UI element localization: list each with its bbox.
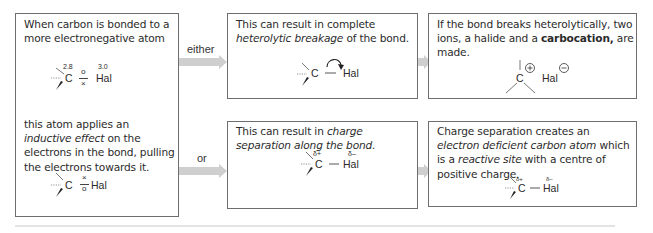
heterolytic-text: This can result in complete heterolytic … bbox=[236, 17, 416, 45]
carbon-label: C bbox=[65, 180, 73, 191]
carbon-label: C bbox=[315, 159, 323, 170]
carbon-label: C bbox=[311, 68, 319, 79]
halogen-label: Hal bbox=[543, 183, 559, 194]
electron-cross: × bbox=[81, 80, 86, 88]
partial-negative-charge: δ– bbox=[348, 150, 356, 158]
electron-cross: × bbox=[82, 174, 87, 182]
electron-dot: o bbox=[82, 185, 86, 193]
electron-dot: o bbox=[81, 68, 85, 76]
arrow-right-icon bbox=[179, 164, 229, 178]
reactive-site-text: Charge separation creates an electron de… bbox=[437, 124, 635, 181]
carbon-label: C bbox=[516, 73, 524, 84]
premise-top-text: When carbon is bonded to a more electron… bbox=[24, 17, 174, 45]
molecule-c-hal-electronegativity: 2.8 C o × 3.0 Hal bbox=[50, 60, 160, 96]
halogen-label: Hal bbox=[343, 68, 359, 79]
text-emphasis: inductive effect bbox=[24, 132, 104, 144]
text-bold: carbocation, bbox=[541, 32, 614, 44]
either-label: either bbox=[187, 43, 215, 55]
partial-positive-charge: δ+ bbox=[313, 150, 321, 158]
carbocation-text: If the bond breaks heterolytically, two … bbox=[437, 17, 635, 60]
halogen-label: Hal bbox=[96, 73, 112, 84]
halogen-label: Hal bbox=[91, 180, 107, 191]
molecule-c-hal-inductive: C × o Hal bbox=[50, 169, 160, 205]
divider bbox=[15, 225, 615, 227]
molecule-heterolytic: C Hal bbox=[296, 55, 396, 95]
text-part: Charge separation creates an bbox=[437, 125, 590, 137]
carbon-label: C bbox=[518, 183, 526, 194]
molecule-reactive-site: δ+ C δ– Hal bbox=[504, 176, 604, 208]
charge-separation-text: This can result in charge separation alo… bbox=[236, 124, 416, 152]
halogen-label: Hal bbox=[343, 159, 359, 170]
text-part: This can result in complete bbox=[236, 18, 375, 30]
molecule-charge-separation: δ+ C δ– Hal bbox=[300, 150, 400, 190]
text-part: This can result in bbox=[236, 125, 327, 137]
halide-label: Hal bbox=[542, 73, 558, 84]
carbon-label: C bbox=[65, 73, 73, 84]
arrow-right-icon bbox=[179, 55, 229, 69]
premise-bottom-text: this atom applies an inductive effect on… bbox=[24, 117, 176, 174]
text-part: of the bond. bbox=[343, 32, 409, 44]
carbon-electronegativity: 2.8 bbox=[63, 63, 73, 71]
text-part: this atom applies an bbox=[24, 118, 129, 130]
or-label: or bbox=[197, 152, 207, 164]
text-emphasis: reactive site bbox=[458, 153, 522, 165]
molecule-carbocation: C Hal bbox=[502, 60, 602, 98]
text-emphasis: heterolytic breakage bbox=[236, 32, 343, 44]
halogen-electronegativity: 3.0 bbox=[98, 63, 108, 71]
text-emphasis: electron deficient carbon atom bbox=[437, 139, 596, 151]
